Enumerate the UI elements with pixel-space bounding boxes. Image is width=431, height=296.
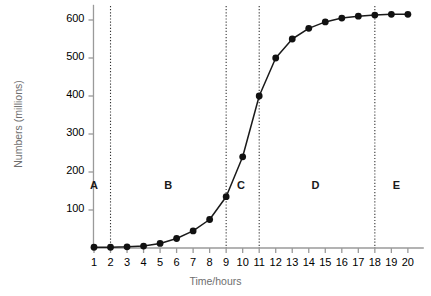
- y-tick-label-300: 300: [66, 126, 84, 138]
- data-point-h7[interactable]: [190, 228, 197, 235]
- x-axis-title: Time/hours: [0, 275, 431, 287]
- x-tick-label-20: 20: [396, 256, 420, 268]
- region-b: B: [158, 179, 178, 191]
- region-d: D: [305, 179, 325, 191]
- data-point-h9[interactable]: [223, 193, 230, 200]
- region-a: A: [84, 179, 104, 191]
- data-point-h4[interactable]: [140, 243, 147, 250]
- region-e: E: [386, 179, 406, 191]
- data-point-h18[interactable]: [371, 12, 378, 19]
- data-point-h10[interactable]: [239, 153, 246, 160]
- data-point-h12[interactable]: [272, 55, 279, 62]
- data-point-h5[interactable]: [157, 240, 164, 247]
- y-tick-label-400: 400: [66, 88, 84, 100]
- data-point-h15[interactable]: [322, 19, 329, 26]
- growth-curve-chart: 1002003004005006001234567891011121314151…: [0, 0, 431, 296]
- data-point-h1[interactable]: [91, 244, 98, 251]
- data-point-h8[interactable]: [206, 216, 213, 223]
- y-tick-label-200: 200: [66, 164, 84, 176]
- y-tick-label-600: 600: [66, 12, 84, 24]
- y-tick-label-500: 500: [66, 50, 84, 62]
- chart-canvas: [0, 0, 431, 296]
- y-tick-label-100: 100: [66, 202, 84, 214]
- data-point-h13[interactable]: [289, 36, 296, 43]
- data-point-h17[interactable]: [355, 13, 362, 20]
- data-point-h16[interactable]: [338, 15, 345, 22]
- data-point-h11[interactable]: [256, 93, 263, 100]
- data-point-h2[interactable]: [107, 244, 114, 251]
- y-axis-title: Numbers (millions): [12, 64, 24, 184]
- data-point-h20[interactable]: [404, 11, 411, 18]
- data-point-h6[interactable]: [173, 235, 180, 242]
- series-line-numbers: [94, 14, 408, 247]
- region-c: C: [231, 179, 251, 191]
- data-point-h14[interactable]: [305, 25, 312, 32]
- data-point-h19[interactable]: [388, 11, 395, 18]
- data-point-h3[interactable]: [124, 243, 131, 250]
